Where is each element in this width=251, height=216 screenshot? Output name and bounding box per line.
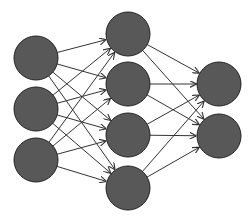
hidden-node-3 [106,113,150,157]
input-node-2 [14,87,58,131]
edge-input-0-to-hidden-0 [57,40,106,53]
edge-input-1-to-hidden-0 [53,48,111,95]
edge-hidden-3-to-output-1 [147,147,199,177]
edge-hidden-0-to-output-0 [147,45,199,74]
edge-hidden-0-to-output-1 [143,50,204,119]
input-node-1 [14,36,58,80]
edge-input-0-to-hidden-1 [57,64,106,78]
output-node-2 [197,114,241,158]
edge-input-2-to-hidden-1 [53,98,111,146]
connection-edges [49,40,204,182]
network-nodes [14,12,241,210]
neural-network-diagram [0,0,251,216]
hidden-node-1 [106,12,150,56]
output-node-1 [197,62,241,106]
edge-input-1-to-hidden-3 [53,123,111,173]
hidden-node-4 [106,166,150,210]
edge-input-2-to-hidden-3 [57,166,106,181]
hidden-node-2 [106,62,150,106]
input-node-3 [14,138,58,182]
